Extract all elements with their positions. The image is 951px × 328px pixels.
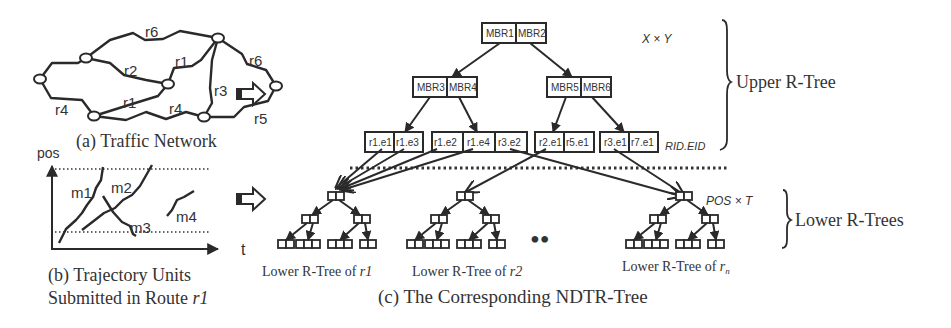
tree-edge bbox=[339, 200, 360, 215]
lower-root-node bbox=[328, 192, 344, 200]
lower-root-node bbox=[676, 192, 692, 200]
tree-edge bbox=[468, 200, 489, 215]
road-r3 bbox=[204, 38, 218, 117]
lower-rtrees-brace: Lower R-Trees bbox=[782, 190, 904, 248]
x-axis-label: t bbox=[241, 241, 246, 258]
lower-mid-node bbox=[431, 215, 447, 223]
node-entry: MBR6 bbox=[583, 82, 611, 93]
upper-leaf-node: r3.e1 r7.e1 bbox=[600, 132, 658, 152]
lower-tree-label: Lower R-Tree of r1 bbox=[262, 264, 372, 279]
tree-edge bbox=[494, 223, 497, 240]
node-entry: MBR5 bbox=[551, 82, 579, 93]
lower-mid-node bbox=[702, 215, 718, 223]
intersection-node bbox=[270, 82, 282, 91]
y-axis-label: pos bbox=[37, 145, 60, 161]
lower-leaf-node bbox=[278, 240, 294, 248]
tree-edge bbox=[687, 200, 708, 215]
leaf-entry: r1.e1 bbox=[369, 137, 392, 148]
lower-leaf-node bbox=[425, 240, 449, 248]
trajectory-label: m2 bbox=[111, 179, 132, 196]
tree-edge bbox=[656, 223, 661, 240]
road-label: r2 bbox=[124, 62, 137, 79]
lower-leaf-node bbox=[360, 240, 376, 248]
intersection-node bbox=[80, 54, 92, 63]
road-label: r4 bbox=[55, 101, 68, 118]
road-label: r5 bbox=[254, 110, 267, 127]
panel-c-caption: (c) The Corresponding NDTR-Tree bbox=[378, 286, 648, 308]
lower-leaf-node bbox=[407, 240, 423, 248]
tree-edge bbox=[415, 223, 436, 240]
road-label: r6 bbox=[145, 23, 158, 40]
leaf-entry: r2.e1 bbox=[539, 137, 562, 148]
tree-edge bbox=[634, 223, 655, 240]
road-label: r1 bbox=[175, 53, 188, 70]
lower-mid-node bbox=[302, 215, 318, 223]
lower-rtrees-label: Lower R-Trees bbox=[795, 210, 904, 230]
tree-edge bbox=[437, 223, 442, 240]
road-r4-left-top bbox=[40, 58, 86, 79]
tree-edge bbox=[441, 200, 462, 215]
leaf-to-lower-tree-pointers bbox=[336, 149, 683, 196]
road-r6-right bbox=[218, 38, 276, 86]
lower-root-node bbox=[457, 192, 473, 200]
upper-rtree-brace: Upper R-Tree bbox=[720, 20, 836, 150]
trajectory-label: m4 bbox=[176, 208, 197, 225]
lower-trees-group bbox=[278, 192, 724, 248]
upper-space-label: X × Y bbox=[641, 32, 672, 46]
node-entry: MBR1 bbox=[486, 28, 514, 39]
leaf-entry: r3.e2 bbox=[498, 137, 521, 148]
leaf-entry: r7.e1 bbox=[631, 137, 654, 148]
ellipsis: •• bbox=[530, 224, 550, 255]
panel-b-trajectory-units: pos t m1 m2 m3 m4 (b) Trajectory Units S… bbox=[37, 145, 246, 308]
tree-edge bbox=[530, 43, 572, 77]
lower-leaf-node bbox=[676, 240, 700, 248]
leaf-entry: r1.e4 bbox=[467, 137, 490, 148]
lower-leaf-node bbox=[708, 240, 724, 248]
node-entry: MBR3 bbox=[417, 82, 445, 93]
lower-leaf-node bbox=[644, 240, 668, 248]
lower-tree-label: Lower R-Tree of rn bbox=[622, 259, 730, 276]
tree-edge bbox=[452, 43, 500, 77]
leaf-key-label: RID.EID bbox=[665, 140, 705, 152]
trajectory-label: m1 bbox=[71, 184, 92, 201]
leaf-entry: r1.e3 bbox=[396, 137, 419, 148]
upper-leaf-node: r2.e1 r5.e1 bbox=[535, 132, 594, 152]
tree-edge bbox=[713, 223, 716, 240]
tree-edge bbox=[688, 223, 707, 240]
node-entry: MBR4 bbox=[449, 82, 477, 93]
trajectory-label: m3 bbox=[130, 219, 151, 236]
upper-level2-right-node: MBR5 MBR6 bbox=[547, 77, 611, 97]
panel-c-ndtr-tree: MBR1 MBR2 MBR3 MBR4 MBR5 MBR6 r1.e1 r1.e… bbox=[262, 23, 754, 308]
tree-edge bbox=[312, 200, 333, 215]
panel-a-caption: (a) Traffic Network bbox=[76, 131, 217, 152]
tree-edge bbox=[405, 97, 430, 132]
leaf-entry: r3.e1 bbox=[604, 137, 627, 148]
lower-tree-label: Lower R-Tree of r2 bbox=[412, 264, 522, 279]
tree-edge bbox=[308, 223, 313, 240]
lower-mid-node bbox=[483, 215, 499, 223]
tree-edge bbox=[340, 223, 359, 240]
lower-leaf-node bbox=[489, 240, 505, 248]
road-label: r3 bbox=[214, 82, 227, 99]
tree-edge bbox=[553, 97, 566, 132]
lower-space-label: POS × T bbox=[706, 194, 754, 208]
upper-root-node: MBR1 MBR2 bbox=[482, 23, 546, 43]
intersection-node bbox=[212, 34, 224, 43]
lower-leaf-node bbox=[457, 240, 481, 248]
tree-edge bbox=[469, 223, 488, 240]
intersection-node bbox=[34, 75, 46, 84]
ndtr-tree-figure: r6 r2 r1 r6 r3 r1 r4 r4 r5 (a) Traffic N… bbox=[0, 0, 951, 328]
leaf-entry: r1.e2 bbox=[434, 137, 457, 148]
lower-mid-node bbox=[650, 215, 666, 223]
intersection-node bbox=[198, 113, 210, 122]
lower-leaf-node bbox=[296, 240, 320, 248]
panel-a-traffic-network: r6 r2 r1 r6 r3 r1 r4 r4 r5 (a) Traffic N… bbox=[34, 23, 282, 152]
tree-edge bbox=[365, 223, 368, 240]
intersection-node bbox=[162, 80, 174, 89]
road-label: r6 bbox=[249, 52, 262, 69]
tree-edge bbox=[459, 97, 477, 132]
intersection-node bbox=[88, 112, 100, 121]
lower-leaf-node bbox=[328, 240, 352, 248]
upper-level2-left-node: MBR3 MBR4 bbox=[413, 77, 477, 97]
road-label: r4 bbox=[169, 100, 182, 117]
